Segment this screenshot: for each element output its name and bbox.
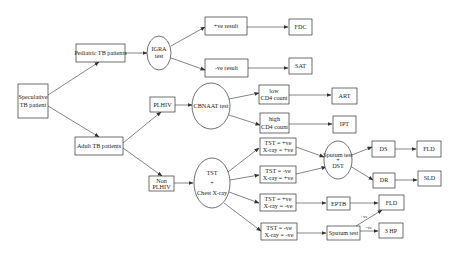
svg-text:X-ray = +ve: X-ray = +ve — [263, 174, 294, 181]
svg-text:EPTB: EPTB — [331, 200, 346, 207]
node-tst-pos-xray-pos: TST = +ve X-ray = +ve — [260, 138, 296, 155]
edge-tst-nn — [224, 203, 261, 231]
svg-text:CBNAAT test: CBNAAT test — [194, 102, 229, 109]
edge-cbnaat-low — [229, 93, 259, 99]
svg-text:X-ray = -ve: X-ray = -ve — [264, 202, 293, 209]
node-speculative: Speculative TB patient — [18, 84, 48, 118]
svg-text:test: test — [155, 52, 164, 59]
node-dr: DR — [373, 173, 395, 188]
edge-sputumdst-dr — [350, 166, 373, 180]
svg-text:ART: ART — [338, 92, 350, 99]
node-sputum-dst: Sputum test + DST — [323, 141, 353, 179]
edge-adult-nonplhiv — [123, 148, 162, 176]
svg-text:TB patient: TB patient — [20, 101, 47, 108]
svg-text:TST: TST — [206, 169, 217, 176]
svg-text:DS: DS — [380, 145, 388, 152]
node-fdc: FDC — [289, 19, 312, 35]
node-igra: IGRA test — [147, 36, 171, 70]
node-high-cd4: high CD4 count — [260, 113, 289, 133]
tb-flowchart: Speculative TB patient Pediatric TB pati… — [0, 0, 459, 253]
edge-tst-np — [230, 175, 259, 180]
svg-text:TST = +ve: TST = +ve — [265, 195, 292, 202]
edge-pp-sputumdst — [296, 147, 324, 157]
svg-text:TST = -ve: TST = -ve — [265, 167, 291, 174]
svg-text:Sputum test: Sputum test — [329, 229, 359, 236]
edge-np-sputumdst — [296, 167, 326, 174]
svg-text:PLHIV: PLHIV — [153, 101, 172, 108]
svg-text:FLD: FLD — [386, 199, 398, 206]
svg-text:Speculative: Speculative — [19, 93, 48, 100]
svg-text:+: + — [210, 179, 214, 186]
node-cbnaat: CBNAAT test — [192, 83, 230, 129]
node-adult: Adult TB patients — [75, 137, 123, 155]
svg-text:TST = -ve: TST = -ve — [266, 224, 292, 231]
svg-text:SLD: SLD — [424, 174, 436, 181]
svg-text:CD4 count: CD4 count — [261, 94, 288, 101]
svg-text:-ve result: -ve result — [215, 64, 238, 71]
node-non-plhiv: Non PLHIV — [149, 176, 174, 191]
node-3hp: 3 HP — [379, 223, 403, 238]
node-pos-result: +ve result — [205, 17, 247, 35]
edge-cbnaat-high — [229, 115, 260, 125]
node-art: ART — [332, 88, 357, 104]
svg-text:3 HP: 3 HP — [385, 227, 398, 234]
node-fld-top: FLD — [417, 141, 441, 157]
svg-text:high: high — [269, 115, 281, 122]
node-fld-bottom: FLD — [379, 195, 404, 210]
node-tst-pos-xray-neg: TST = +ve X-ray = -ve — [260, 194, 296, 211]
svg-text:X-ray = +ve: X-ray = +ve — [263, 146, 294, 153]
svg-text:Adult TB patients: Adult TB patients — [77, 142, 122, 149]
node-sld: SLD — [418, 171, 441, 186]
edge-igra-pos — [171, 27, 205, 46]
node-tst-neg-xray-pos: TST = -ve X-ray = +ve — [260, 166, 296, 183]
node-low-cd4: low CD4 count — [259, 85, 289, 104]
node-plhiv: PLHIV — [150, 97, 175, 112]
node-tst-xray: TST + Chest X-ray — [194, 158, 230, 208]
edge-tst-pn — [229, 192, 259, 203]
svg-text:X-ray = -ve: X-ray = -ve — [265, 231, 294, 238]
node-pediatric: Pediatric TB patients — [74, 44, 127, 62]
svg-text:SAT: SAT — [295, 62, 306, 69]
edge-adult-plhiv — [123, 112, 161, 143]
svg-text:CD4 count: CD4 count — [261, 123, 288, 130]
svg-text:PLHIV: PLHIV — [152, 183, 171, 190]
svg-text:FLD: FLD — [423, 145, 435, 152]
node-eptb: EPTB — [327, 197, 350, 210]
svg-text:+ve result: +ve result — [214, 22, 239, 29]
svg-text:DST: DST — [332, 162, 344, 169]
svg-text:FDC: FDC — [294, 23, 306, 30]
svg-text:Pediatric TB patients: Pediatric TB patients — [74, 49, 127, 56]
svg-text:Chest X-ray: Chest X-ray — [197, 189, 228, 196]
edge-label-sputum-neg: -ve — [366, 225, 373, 230]
node-sputum-test: Sputum test — [327, 226, 360, 240]
node-tst-neg-xray-neg: TST = -ve X-ray = -ve — [261, 223, 297, 240]
svg-text:DR: DR — [380, 176, 389, 183]
svg-text:TST = +ve: TST = +ve — [265, 139, 292, 146]
edge-label-sputum-pos: +ve — [360, 214, 368, 219]
svg-text:IPT: IPT — [340, 120, 350, 127]
svg-text:IGRA: IGRA — [151, 45, 167, 52]
node-neg-result: -ve result — [205, 59, 248, 77]
edge-tst-pp — [228, 148, 259, 172]
edge-speculative-pediatric — [48, 62, 99, 95]
node-sat: SAT — [289, 58, 312, 74]
svg-text:low: low — [269, 87, 279, 94]
node-ipt: IPT — [333, 116, 356, 133]
edge-sputumdst-ds — [352, 147, 372, 155]
edge-igra-neg — [171, 58, 205, 70]
edge-speculative-adult — [48, 106, 99, 137]
node-ds: DS — [372, 141, 395, 157]
